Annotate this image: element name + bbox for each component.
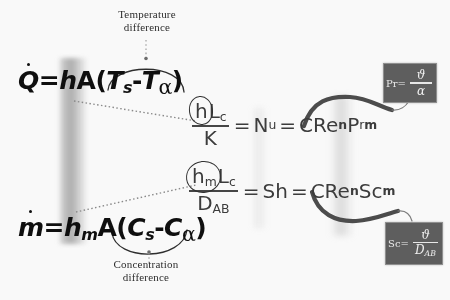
eq-heat-area: A	[77, 66, 96, 95]
eq-heat-equals: =	[39, 66, 59, 95]
sherwood-schmidt: Sc	[359, 179, 383, 203]
leader-endpoint-temperature	[144, 57, 148, 61]
label-concentration-difference: Concentration difference	[85, 258, 207, 284]
sherwood-h: h	[192, 164, 205, 188]
eq-heat-close-paren: )	[172, 66, 183, 95]
nusselt-fraction: hLc K	[192, 101, 229, 148]
eq-mass-area: A	[98, 213, 117, 242]
eq-mass-equals: =	[44, 213, 64, 242]
schmidt-denominator: DAB	[413, 244, 438, 258]
diagram-canvas: Temperature difference Concentration dif…	[0, 0, 450, 300]
schmidt-fraction: ϑ DAB	[413, 229, 438, 258]
sherwood-den-sub: AB	[213, 201, 230, 216]
sherwood-reynolds-exp: n	[350, 183, 359, 198]
circled-hm-annotation: hm	[191, 166, 218, 189]
nusselt-reynolds-exp: n	[338, 117, 347, 132]
schmidt-den-symbol: D	[415, 243, 425, 257]
eq-heat-minus: -	[132, 66, 142, 95]
eq-mass-term1-sub: s	[145, 225, 154, 244]
sherwood-equals-1: =	[243, 179, 260, 203]
eq-mass-coefficient-sub: m	[81, 225, 97, 244]
dotted-link-h-coefficient	[74, 101, 196, 121]
circled-h-annotation: h	[194, 101, 209, 121]
prandtl-fraction: ϑ α	[410, 69, 432, 97]
label-temperature-line1: Temperature	[92, 8, 202, 21]
label-concentration-line2: difference	[85, 271, 207, 284]
sherwood-numerator: hmLc	[189, 166, 238, 189]
sherwood-equals-2: =	[291, 179, 308, 203]
sherwood-denominator: DAB	[195, 193, 231, 216]
eq-heat-term1: T	[106, 66, 123, 95]
sherwood-L-sub: c	[229, 174, 236, 189]
schmidt-den-sub: AB	[425, 249, 436, 258]
eq-heat-lhs: Q	[18, 66, 39, 95]
equation-sherwood-correlation: hmLc DAB = Sh = CRenScm	[187, 166, 395, 216]
sherwood-fraction: hmLc DAB	[189, 166, 238, 216]
ribbon-tail-schmidt	[398, 211, 412, 221]
schmidt-lead: Sc=	[388, 238, 409, 249]
eq-heat-coefficient: h	[59, 66, 76, 95]
nusselt-reynolds: Re	[313, 113, 338, 137]
nusselt-L-sub: c	[220, 109, 227, 124]
leader-endpoint-concentration	[147, 250, 151, 254]
nusselt-prandtl: P	[347, 113, 359, 137]
nusselt-prandtl-exp: m	[364, 117, 377, 132]
eq-mass-close-paren: )	[195, 213, 206, 242]
prandtl-lead: Pr=	[386, 78, 406, 89]
sherwood-reynolds: Re	[325, 179, 350, 203]
nusselt-numerator: hLc	[192, 101, 229, 124]
eq-mass-minus: -	[154, 213, 164, 242]
label-temperature-line2: difference	[92, 21, 202, 34]
nusselt-constant: C	[299, 113, 313, 137]
eq-heat-open-paren: (	[95, 66, 106, 95]
equation-nusselt-correlation: hLc K = Nu = CRenPrm	[190, 101, 377, 148]
prandtl-numerator: ϑ	[415, 69, 428, 81]
sherwood-constant: C	[311, 179, 325, 203]
nusselt-equals-1: =	[234, 113, 251, 137]
sherwood-den-symbol: D	[197, 191, 212, 215]
label-temperature-difference: Temperature difference	[92, 8, 202, 34]
nusselt-h: h	[195, 99, 208, 123]
eq-mass-term1: C	[127, 213, 145, 242]
eq-mass-open-paren: (	[116, 213, 127, 242]
prandtl-number-box: Pr= ϑ α	[383, 63, 437, 103]
sherwood-schmidt-exp: m	[382, 183, 395, 198]
equation-mass-transfer-rate: m=hmA(Cs-Cα)	[18, 213, 206, 246]
nusselt-denominator: K	[202, 128, 219, 148]
schmidt-numerator: ϑ	[419, 229, 432, 241]
nusselt-symbol-sub: u	[268, 117, 276, 132]
sherwood-symbol: Sh	[263, 179, 288, 203]
schmidt-number-box: Sc= ϑ DAB	[385, 222, 443, 265]
eq-heat-term2-sub: α	[158, 75, 171, 99]
annotation-overlay	[0, 0, 450, 300]
dotted-link-hm-coefficient	[76, 185, 196, 212]
eq-mass-term2: C	[164, 213, 182, 242]
equation-heat-transfer-rate: Q=hA(Ts-Tα)	[18, 66, 183, 99]
label-concentration-line1: Concentration	[85, 258, 207, 271]
sherwood-h-sub: m	[205, 174, 217, 189]
eq-mass-term2-sub: α	[182, 222, 195, 246]
eq-mass-coefficient: h	[64, 213, 81, 242]
nusselt-equals-2: =	[279, 113, 296, 137]
eq-heat-term1-sub: s	[123, 78, 132, 97]
eq-mass-lhs: m	[18, 213, 44, 242]
prandtl-denominator: α	[415, 85, 427, 97]
eq-heat-term2: T	[142, 66, 159, 95]
nusselt-symbol: N	[253, 113, 268, 137]
